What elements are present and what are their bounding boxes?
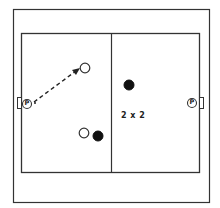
left-goal [18,98,22,109]
pass-arrow-icon [34,68,80,104]
goalkeeper-right-label: P [190,98,195,106]
open-player-bottom-icon [79,128,89,138]
court-boundary [22,34,200,173]
right-goal [200,98,204,109]
filled-player-right-icon [124,80,134,90]
filled-player-bottom-icon [93,131,103,141]
drill-diagram [0,0,220,208]
open-player-top-icon [80,63,90,73]
goalkeeper-left-label: P [25,99,30,107]
drill-label: 2 x 2 [121,111,145,120]
